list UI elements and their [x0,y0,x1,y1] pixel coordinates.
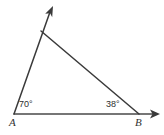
geometry-canvas [0,0,164,135]
hypotenuse-line-apex-to-b [41,31,139,114]
geometry-figure: 70° 38° A B [0,0,164,135]
angle-label-a: 70° [19,100,33,109]
vertex-label-a: A [9,117,16,128]
angle-label-b: 38° [106,100,120,109]
vertex-label-b: B [135,117,142,128]
